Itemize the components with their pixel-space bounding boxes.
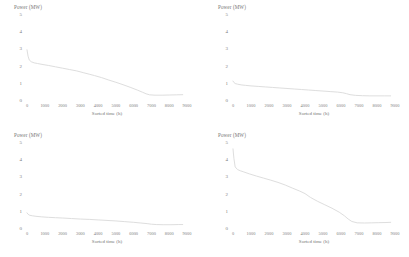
y-axis-tick: 0 bbox=[12, 98, 22, 103]
data-line bbox=[233, 149, 391, 223]
x-axis-tick: 3000 bbox=[283, 103, 292, 108]
x-axis-tick: 7000 bbox=[147, 231, 156, 236]
x-axis-tick: 5000 bbox=[111, 103, 120, 108]
curve-canvas bbox=[27, 142, 187, 228]
x-axis-tick: 9000 bbox=[183, 231, 192, 236]
x-axis-tick: 3000 bbox=[76, 103, 85, 108]
y-axis-tick: 2 bbox=[12, 63, 22, 68]
chart-panel-top-left: Power (MW)543210010002000300040005000600… bbox=[0, 0, 204, 128]
x-axis-tick: 0 bbox=[232, 231, 234, 236]
x-axis-tick: 8000 bbox=[373, 103, 382, 108]
x-axis-tick: 6000 bbox=[129, 231, 138, 236]
x-axis-tick: 9000 bbox=[391, 103, 400, 108]
y-axis-tick: 0 bbox=[218, 98, 228, 103]
y-axis-tick: 4 bbox=[12, 157, 22, 162]
curve-canvas bbox=[27, 14, 187, 100]
y-axis-tick: 3 bbox=[12, 46, 22, 51]
y-axis-tick: 4 bbox=[218, 157, 228, 162]
x-axis-tick: 1000 bbox=[247, 231, 256, 236]
x-axis-label: Sorted time (h) bbox=[92, 239, 122, 244]
x-axis-tick: 4000 bbox=[94, 103, 103, 108]
x-axis-tick: 6000 bbox=[129, 103, 138, 108]
x-axis-tick: 6000 bbox=[337, 231, 346, 236]
x-axis-tick: 2000 bbox=[58, 103, 67, 108]
x-axis-tick: 8000 bbox=[165, 231, 174, 236]
x-axis-tick: 3000 bbox=[283, 231, 292, 236]
x-axis-label: Sorted time (h) bbox=[92, 111, 122, 116]
data-line bbox=[27, 50, 183, 95]
y-axis-label: Power (MW) bbox=[14, 4, 42, 10]
x-axis-tick: 7000 bbox=[147, 103, 156, 108]
y-axis-tick: 4 bbox=[12, 29, 22, 34]
y-axis-label: Power (MW) bbox=[218, 4, 246, 10]
x-axis-tick: 8000 bbox=[165, 103, 174, 108]
y-axis-tick: 3 bbox=[12, 174, 22, 179]
y-axis-tick: 4 bbox=[218, 29, 228, 34]
y-axis-tick: 5 bbox=[12, 12, 22, 17]
x-axis-tick: 0 bbox=[26, 231, 28, 236]
chart-panel-bottom-left: Power (MW)543210010002000300040005000600… bbox=[0, 128, 204, 257]
x-axis-tick: 8000 bbox=[373, 231, 382, 236]
x-axis-tick: 5000 bbox=[319, 231, 328, 236]
y-axis-label: Power (MW) bbox=[218, 132, 246, 138]
y-axis-label: Power (MW) bbox=[14, 132, 42, 138]
x-axis-tick: 3000 bbox=[76, 231, 85, 236]
x-axis-tick: 7000 bbox=[355, 103, 364, 108]
y-axis-tick: 1 bbox=[12, 80, 22, 85]
y-axis-tick: 1 bbox=[218, 80, 228, 85]
x-axis-tick: 0 bbox=[232, 103, 234, 108]
chart-panel-top-right: Power (MW)543210010002000300040005000600… bbox=[204, 0, 409, 128]
x-axis-tick: 9000 bbox=[391, 231, 400, 236]
plot-area: 5432100100020003000400050006000700080009… bbox=[27, 14, 187, 100]
x-axis-tick: 7000 bbox=[355, 231, 364, 236]
y-axis-tick: 5 bbox=[218, 140, 228, 145]
y-axis-tick: 3 bbox=[218, 174, 228, 179]
y-axis-tick: 2 bbox=[218, 191, 228, 196]
plot-area: 5432100100020003000400050006000700080009… bbox=[27, 142, 187, 228]
x-axis-tick: 0 bbox=[26, 103, 28, 108]
y-axis-tick: 5 bbox=[12, 140, 22, 145]
x-axis-tick: 5000 bbox=[319, 103, 328, 108]
plot-area: 5432100100020003000400050006000700080009… bbox=[233, 14, 395, 100]
x-axis-tick: 2000 bbox=[58, 231, 67, 236]
chart-grid: Power (MW)543210010002000300040005000600… bbox=[0, 0, 409, 257]
x-axis-tick: 1000 bbox=[40, 231, 49, 236]
x-axis-tick: 6000 bbox=[337, 103, 346, 108]
x-axis-tick: 2000 bbox=[265, 231, 274, 236]
chart-panel-bottom-right: Power (MW)543210010002000300040005000600… bbox=[204, 128, 409, 257]
x-axis-tick: 2000 bbox=[265, 103, 274, 108]
y-axis-tick: 0 bbox=[218, 226, 228, 231]
y-axis-tick: 1 bbox=[218, 208, 228, 213]
y-axis-tick: 2 bbox=[12, 191, 22, 196]
y-axis-tick: 0 bbox=[12, 226, 22, 231]
y-axis-tick: 5 bbox=[218, 12, 228, 17]
x-axis-tick: 5000 bbox=[111, 231, 120, 236]
x-axis-tick: 1000 bbox=[40, 103, 49, 108]
x-axis-tick: 9000 bbox=[183, 103, 192, 108]
x-axis-tick: 4000 bbox=[94, 231, 103, 236]
curve-canvas bbox=[233, 142, 395, 228]
x-axis-tick: 4000 bbox=[301, 231, 310, 236]
data-line bbox=[27, 213, 183, 225]
x-axis-tick: 4000 bbox=[301, 103, 310, 108]
x-axis-label: Sorted time (h) bbox=[299, 239, 329, 244]
y-axis-tick: 2 bbox=[218, 63, 228, 68]
data-line bbox=[233, 81, 391, 96]
plot-area: 5432100100020003000400050006000700080009… bbox=[233, 142, 395, 228]
curve-canvas bbox=[233, 14, 395, 100]
x-axis-label: Sorted time (h) bbox=[299, 111, 329, 116]
y-axis-tick: 3 bbox=[218, 46, 228, 51]
y-axis-tick: 1 bbox=[12, 208, 22, 213]
x-axis-tick: 1000 bbox=[247, 103, 256, 108]
